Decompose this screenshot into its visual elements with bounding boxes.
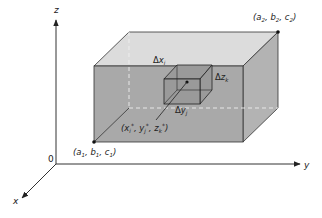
z-axis-label: z [53,5,59,15]
y-axis-label: y [303,160,310,170]
triple-integral-box-diagram: z y x 0 (a1, b1, c1) (a2, b2, c2) Δxi Δz… [0,0,322,218]
corner-max-label: (a2, b2, c2) [253,12,296,23]
diagram-canvas: z y x 0 (a1, b1, c1) (a2, b2, c2) Δxi Δz… [0,0,322,218]
origin-label: 0 [48,154,54,164]
sub-box-front-face [164,79,200,104]
corner-min-point [92,140,96,144]
corner-min-label: (a1, b1, c1) [73,147,116,158]
x-axis-label: x [12,196,19,206]
corner-max-point [276,30,280,34]
x-axis [22,164,56,198]
